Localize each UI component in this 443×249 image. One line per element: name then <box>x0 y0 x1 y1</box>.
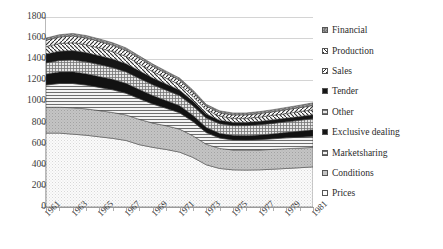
legend-item-exclusive-dealing[interactable]: Exclusive dealing <box>322 122 443 142</box>
legend-item-sales[interactable]: Sales <box>322 61 443 81</box>
x-axis-tick-mark <box>193 208 194 211</box>
legend-label: Production <box>332 46 374 56</box>
legend-item-marketsharing[interactable]: Marketsharing <box>322 142 443 162</box>
legend-label: Sales <box>332 66 352 76</box>
x-axis-tick-mark <box>220 208 221 211</box>
x-axis-tick-mark <box>59 208 60 211</box>
legend-swatch-icon <box>322 190 328 196</box>
legend-item-other[interactable]: Other <box>322 102 443 122</box>
x-axis-tick-mark <box>300 208 301 211</box>
legend-label: Financial <box>332 25 367 35</box>
x-axis-tick-mark <box>113 208 114 211</box>
chart-legend: FinancialProductionSalesTenderOtherExclu… <box>322 20 443 204</box>
legend-swatch-icon <box>322 27 328 33</box>
legend-item-conditions[interactable]: Conditions <box>322 163 443 183</box>
legend-label: Exclusive dealing <box>332 127 400 137</box>
stacked-area-chart: 020040060080010001200140016001800 196119… <box>0 0 443 249</box>
legend-item-financial[interactable]: Financial <box>322 20 443 40</box>
legend-swatch-icon <box>322 170 328 176</box>
legend-swatch-icon <box>322 68 328 74</box>
legend-label: Tender <box>332 86 358 96</box>
x-axis-tick-mark <box>273 208 274 211</box>
legend-item-tender[interactable]: Tender <box>322 81 443 101</box>
x-axis-tick-mark <box>86 208 87 211</box>
x-axis-tick-mark <box>166 208 167 211</box>
legend-swatch-icon <box>322 150 328 156</box>
legend-swatch-icon <box>322 129 328 135</box>
legend-swatch-icon <box>322 109 328 115</box>
legend-label: Marketsharing <box>332 148 387 158</box>
legend-label: Conditions <box>332 168 374 178</box>
legend-swatch-icon <box>322 88 328 94</box>
x-axis-tick-mark <box>139 208 140 211</box>
legend-item-production[interactable]: Production <box>322 40 443 60</box>
legend-item-prices[interactable]: Prices <box>322 183 443 203</box>
legend-swatch-icon <box>322 48 328 54</box>
legend-label: Other <box>332 107 354 117</box>
x-axis-tick-mark <box>246 208 247 211</box>
legend-label: Prices <box>332 188 355 198</box>
